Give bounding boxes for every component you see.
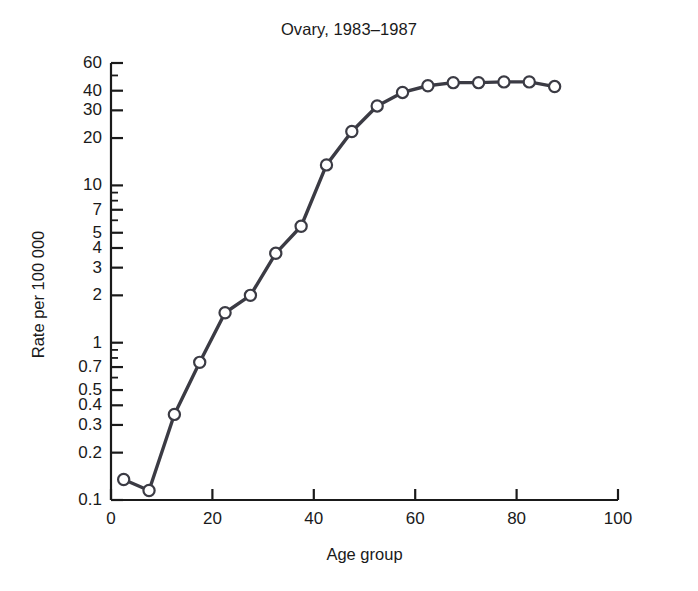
- data-point-marker: [321, 159, 332, 170]
- y-tick-label: 2: [40, 285, 102, 305]
- y-tick-label: 60: [40, 53, 102, 73]
- x-tick-label: 60: [406, 509, 425, 529]
- data-point-marker: [473, 77, 484, 88]
- tick-marks: [111, 63, 618, 500]
- y-tick-label: 10: [40, 175, 102, 195]
- y-tick-label: 0.7: [40, 357, 102, 377]
- plot-area: [0, 0, 698, 591]
- data-point-marker: [143, 485, 154, 496]
- y-tick-label: 1: [40, 333, 102, 353]
- y-tick-label: 20: [40, 128, 102, 148]
- y-tick-label: 0.3: [40, 415, 102, 435]
- x-tick-label: 20: [203, 509, 222, 529]
- x-tick-label: 0: [106, 509, 115, 529]
- y-tick-label: 30: [40, 100, 102, 120]
- data-point-marker: [422, 80, 433, 91]
- data-point-markers: [118, 76, 560, 496]
- data-point-marker: [245, 290, 256, 301]
- data-point-marker: [372, 100, 383, 111]
- x-tick-label: 80: [507, 509, 526, 529]
- data-point-marker: [498, 76, 509, 87]
- x-tick-label: 100: [604, 509, 632, 529]
- data-point-marker: [118, 474, 129, 485]
- data-point-marker: [346, 126, 357, 137]
- y-tick-label: 7: [40, 200, 102, 220]
- data-point-marker: [448, 77, 459, 88]
- data-series-line: [124, 82, 555, 491]
- data-point-marker: [169, 409, 180, 420]
- x-tick-label: 40: [304, 509, 323, 529]
- y-tick-label: 4: [40, 238, 102, 258]
- data-point-marker: [296, 221, 307, 232]
- y-tick-label: 0.1: [40, 490, 102, 510]
- data-point-marker: [397, 87, 408, 98]
- data-point-marker: [270, 248, 281, 259]
- y-tick-label: 0.4: [40, 395, 102, 415]
- y-tick-label: 40: [40, 81, 102, 101]
- y-tick-label: 3: [40, 258, 102, 278]
- data-point-marker: [549, 81, 560, 92]
- axes: [111, 63, 618, 500]
- data-point-marker: [524, 76, 535, 87]
- chart-figure: Ovary, 1983–1987 Rate per 100 000 Age gr…: [0, 0, 698, 591]
- data-point-marker: [194, 357, 205, 368]
- data-point-marker: [219, 307, 230, 318]
- y-tick-label: 0.2: [40, 443, 102, 463]
